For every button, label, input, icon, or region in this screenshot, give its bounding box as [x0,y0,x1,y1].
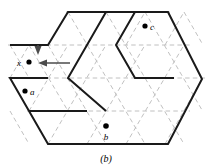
grid-line-diagonal-right [126,12,145,45]
point-x-dot [26,59,31,64]
figure-caption: (b) [100,153,112,165]
corner-arrow [35,45,42,55]
grid-line-diagonal-left [184,12,203,45]
tiling-diagram: x a b c (b) [0,0,213,166]
point-c: c [142,22,154,32]
point-a-label: a [30,87,35,97]
point-b-label: b [104,132,109,142]
point-a: a [22,87,35,97]
point-b-dot [103,123,109,129]
grid-line-diagonal-left [10,111,29,144]
corner-arrow-head [35,46,42,55]
point-a-dot [22,88,27,93]
figure-container: x a b c (b) [0,0,213,166]
arrow-group [35,45,71,67]
cut-path-central-v [68,12,106,111]
translation-arrow-head [38,60,47,67]
translation-arrow [38,60,70,67]
point-c-dot [142,23,147,28]
point-x-label: x [16,58,21,68]
point-b: b [103,123,109,142]
point-x: x [16,58,32,68]
point-c-label: c [150,22,154,32]
